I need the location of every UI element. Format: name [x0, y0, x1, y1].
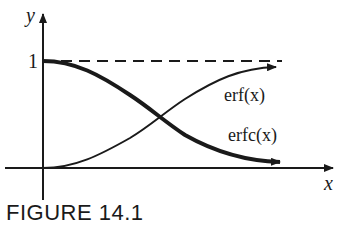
erf-label: erf(x)	[224, 85, 265, 106]
y-axis-label: y	[24, 4, 35, 27]
erf-curve	[43, 67, 276, 168]
erfc-label: erfc(x)	[228, 125, 277, 146]
figure: y x 1 erf(x) erfc(x) FIGURE 14.1	[0, 0, 351, 239]
x-axis-label: x	[323, 172, 333, 194]
y-tick-1: 1	[28, 50, 38, 72]
erfc-curve	[43, 61, 280, 162]
figure-caption: FIGURE 14.1	[6, 200, 144, 226]
